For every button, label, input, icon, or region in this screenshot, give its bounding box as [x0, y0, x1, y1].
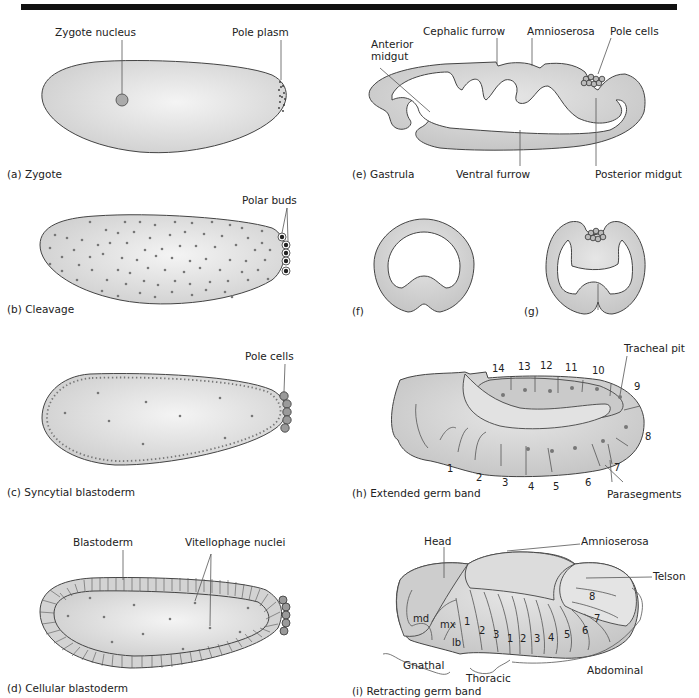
zygote-nucleus-icon — [116, 94, 128, 106]
syncytial-egg — [42, 374, 286, 466]
abdominal-6: 6 — [582, 625, 588, 636]
segment-6: 6 — [585, 477, 591, 488]
caption-c: (c) Syncytial blastoderm — [7, 486, 135, 498]
embryo-development-figure: Zygote nucleus Pole plasm (a) Zygote — [0, 0, 699, 698]
segment-11: 11 — [565, 362, 578, 373]
panel-b-cleavage: Polar buds (b) Cleavage — [7, 194, 297, 315]
panel-g-cross-section: (g) — [524, 221, 645, 317]
segment-3: 3 — [502, 477, 508, 488]
segment-14: 14 — [492, 363, 505, 374]
label-anterior: Anterior — [371, 38, 414, 50]
caption-i: (i) Retracting germ band — [352, 685, 481, 697]
caption-a: (a) Zygote — [7, 168, 62, 180]
label-posterior-midgut: Posterior midgut — [595, 168, 682, 180]
label-telson: Telson — [652, 570, 686, 582]
gnathal-mx: mx — [440, 619, 456, 630]
caption-g: (g) — [524, 305, 539, 317]
abdominal-8: 8 — [589, 591, 595, 602]
label-pole-cells-c: Pole cells — [245, 350, 294, 362]
segment-1: 1 — [447, 463, 453, 474]
label-head: Head — [424, 535, 451, 547]
caption-b: (b) Cleavage — [7, 303, 74, 315]
thoracic-2: 2 — [479, 625, 485, 636]
label-ventral-furrow: Ventral furrow — [456, 168, 531, 180]
caption-d: (d) Cellular blastoderm — [7, 682, 128, 694]
panel-e-gastrula: Cephalic furrow Amnioserosa Pole cells A… — [352, 25, 682, 180]
panel-h-extended-germ-band: 14 13 12 11 10 9 8 7 6 5 4 3 2 1 Trachea… — [352, 342, 685, 500]
segment-7: 7 — [614, 462, 620, 473]
abdominal-5: 5 — [564, 629, 570, 640]
label-blastoderm: Blastoderm — [73, 536, 133, 548]
label-polar-buds: Polar buds — [242, 194, 297, 206]
segment-8: 8 — [645, 431, 651, 442]
label-zygote-nucleus: Zygote nucleus — [55, 26, 136, 38]
caption-h: (h) Extended germ band — [352, 487, 481, 499]
abdominal-7: 7 — [594, 613, 600, 624]
label-vitellophage-nuclei: Vitellophage nuclei — [185, 536, 285, 548]
thoracic-3: 3 — [493, 629, 499, 640]
label-gnathal: Gnathal — [403, 659, 444, 671]
panel-f-cross-section: (f) — [352, 219, 474, 317]
gnathal-md: md — [413, 613, 429, 624]
label-pole-cells-e: Pole cells — [610, 25, 659, 37]
caption-e: (e) Gastrula — [352, 168, 414, 180]
segment-4: 4 — [528, 481, 534, 492]
zygote-egg — [42, 61, 286, 153]
panel-d-cellular-blastoderm: Blastoderm Vitellophage nuclei (d) Cellu… — [7, 536, 290, 694]
label-thoracic: Thoracic — [465, 672, 511, 684]
abdominal-3: 3 — [534, 633, 540, 644]
gnathal-lb: lb — [452, 637, 461, 648]
abdominal-4: 4 — [548, 632, 554, 643]
cleavage-egg — [40, 215, 285, 304]
label-parasegments: Parasegments — [607, 488, 682, 500]
caption-f: (f) — [352, 305, 364, 317]
segment-9: 9 — [634, 381, 640, 392]
segment-13: 13 — [518, 361, 531, 372]
abdominal-1: 1 — [507, 633, 513, 644]
segment-5: 5 — [553, 481, 559, 492]
thoracic-1: 1 — [464, 616, 470, 627]
segment-2: 2 — [476, 472, 482, 483]
label-amnioserosa-e: Amnioserosa — [527, 25, 595, 37]
label-amnioserosa-i: Amnioserosa — [581, 535, 649, 547]
label-tracheal-pit: Tracheal pit — [623, 342, 685, 354]
label-pole-plasm: Pole plasm — [232, 26, 289, 38]
abdominal-2: 2 — [520, 633, 526, 644]
segment-12: 12 — [540, 360, 553, 371]
label-cephalic-furrow: Cephalic furrow — [423, 25, 505, 37]
label-midgut: midgut — [371, 50, 408, 62]
pole-cells-e — [581, 74, 605, 87]
panel-i-retracting-germ-band: md mx lb 1 2 3 1 2 3 4 5 6 7 8 Head Amni… — [352, 535, 686, 697]
panel-a-zygote: Zygote nucleus Pole plasm (a) Zygote — [7, 26, 289, 180]
label-abdominal: Abdominal — [587, 664, 643, 676]
panel-c-syncytial-blastoderm: Pole cells (c) Syncytial blastoderm — [7, 350, 294, 498]
segment-10: 10 — [592, 365, 605, 376]
cross-section-f — [374, 219, 474, 312]
